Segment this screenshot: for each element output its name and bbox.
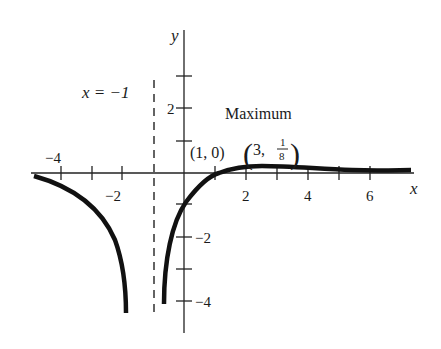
x-tick-label: 4: [304, 188, 312, 204]
x-tick-label: −2: [105, 188, 121, 204]
max-x-value: 3,: [253, 141, 265, 158]
x-tick-label: −4: [45, 150, 61, 166]
y-tick-label: 2: [167, 101, 175, 117]
x-tick-label: 6: [366, 188, 374, 204]
asymptote-label: x = −1: [81, 83, 130, 102]
y-axis-label: y: [169, 26, 179, 45]
y-tick-label: −2: [195, 230, 211, 246]
max-y-numerator: 1: [280, 136, 286, 148]
x-tick-label: 2: [242, 188, 250, 204]
left-paren: (: [243, 137, 253, 171]
x-intercept-label: (1, 0): [190, 144, 225, 162]
max-y-denominator: 8: [279, 150, 285, 162]
asymptote-label-text: x = −1: [81, 83, 130, 102]
right-paren: ): [290, 137, 300, 171]
function-graph: y x −4 −2 2 4 6 2 −2 −4 x = −1 Maximum (…: [0, 0, 441, 349]
y-tick-label: −4: [195, 294, 211, 310]
maximum-title: Maximum: [225, 105, 292, 122]
x-axis-label: x: [409, 179, 418, 198]
